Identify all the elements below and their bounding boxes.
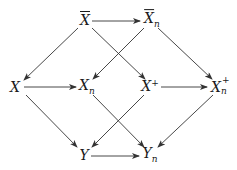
node-superscript: +: [151, 78, 159, 88]
node-sub-sup-stack: +n: [221, 81, 229, 95]
node-x-n: Xn: [79, 78, 95, 96]
node-label: X: [79, 77, 89, 93]
node-label: Y: [79, 147, 88, 163]
arrow-Xbar_n-to-X_n_plus: [158, 28, 212, 79]
arrow-X_n_plus-to-Y_n: [158, 95, 213, 147]
node-label: X: [144, 10, 154, 26]
node-label: Y: [142, 145, 151, 161]
node-label: X: [80, 12, 90, 28]
node-x-plus: X+: [141, 79, 159, 94]
node-subscript: n: [89, 86, 95, 96]
edges-group: [24, 21, 213, 156]
node-label: X: [211, 79, 221, 95]
node-subscript: n: [154, 19, 160, 29]
node-subscript: n: [152, 154, 158, 164]
node-label: X: [10, 79, 20, 95]
node-x-n-plus: X+n: [211, 80, 229, 95]
arrow-Xbar-to-X: [24, 28, 78, 80]
arrow-X-to-Y: [26, 95, 77, 147]
node-y: Y: [79, 148, 88, 162]
node-xbar-n: Xn: [144, 11, 160, 29]
node-subscript: n: [221, 87, 227, 96]
node-xbar: X: [80, 13, 90, 27]
node-superscript: +: [222, 76, 230, 85]
node-label: X: [141, 78, 151, 94]
commutative-diagram: [0, 0, 237, 170]
node-x: X: [10, 80, 20, 94]
arrow-Xbar_n-to-X_n: [93, 28, 144, 79]
node-y-n: Yn: [142, 146, 157, 164]
